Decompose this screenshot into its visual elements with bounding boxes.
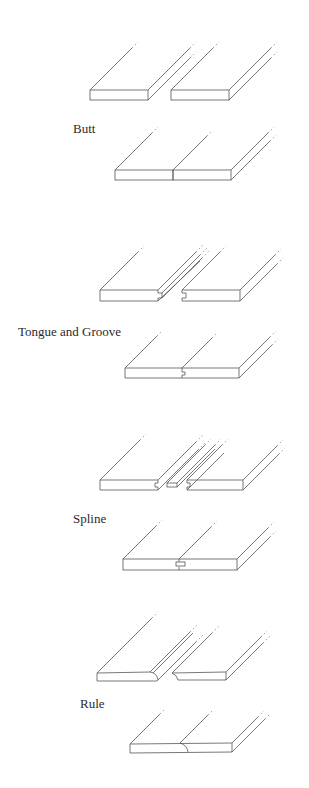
- spline-separated-boards: [100, 434, 285, 490]
- label-tongue-and-groove: Tongue and Groove: [18, 324, 121, 339]
- joint-diagrams: [0, 0, 309, 788]
- rule-separated-boards: [97, 612, 270, 681]
- label-rule: Rule: [80, 696, 105, 711]
- label-butt: Butt: [73, 121, 95, 136]
- rule-joined-boards: [130, 709, 270, 753]
- spline-joined-boards: [123, 520, 276, 570]
- tongue-groove-joined-boards: [125, 331, 278, 378]
- butt-separated-boards: [90, 42, 277, 100]
- tongue-groove-separated-boards: [100, 244, 283, 301]
- label-spline: Spline: [73, 511, 106, 526]
- butt-joined-boards: [115, 127, 276, 180]
